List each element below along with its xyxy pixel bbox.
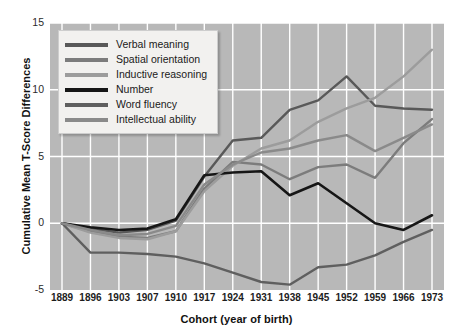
legend-item-label: Number — [116, 84, 153, 95]
legend-item: Spatial orientation — [65, 52, 207, 67]
x-axis-tick-label: 1973 — [415, 293, 449, 303]
y-axis-tick-label: 15 — [0, 17, 44, 28]
legend-item-label: Verbal meaning — [116, 39, 189, 50]
legend-item: Intellectual ability — [65, 112, 207, 127]
legend-item-label: Word fluency — [116, 99, 177, 110]
chart-figure: Cumulative Mean T-Score Differences -505… — [0, 0, 473, 334]
y-axis-tick-label: 5 — [0, 151, 44, 162]
legend-color-swatch — [65, 118, 108, 122]
legend-item-label: Intellectual ability — [116, 114, 196, 125]
legend-color-swatch — [65, 58, 108, 62]
series-line — [62, 119, 432, 238]
x-axis-title: Cohort (year of birth) — [0, 313, 473, 325]
y-axis-tick-label: 10 — [0, 84, 44, 95]
legend-item: Word fluency — [65, 97, 207, 112]
legend-item-label: Inductive reasoning — [116, 69, 207, 80]
y-axis-tick-label: -5 — [0, 284, 44, 295]
series-line — [62, 171, 432, 230]
legend-color-swatch — [65, 73, 108, 77]
series-line — [62, 124, 432, 235]
legend-item: Verbal meaning — [65, 37, 207, 52]
legend-color-swatch — [65, 43, 108, 47]
legend-item-label: Spatial orientation — [116, 54, 200, 65]
legend-color-swatch — [65, 103, 108, 107]
chart-legend: Verbal meaningSpatial orientationInducti… — [58, 30, 218, 134]
legend-item: Number — [65, 82, 207, 97]
legend-item: Inductive reasoning — [65, 67, 207, 82]
legend-color-swatch — [65, 88, 108, 92]
y-axis-tick-label: 0 — [0, 217, 44, 228]
